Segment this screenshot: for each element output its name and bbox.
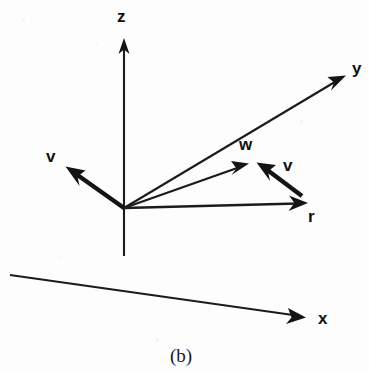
vector-label-w: w <box>239 136 252 153</box>
vector-label-v-right: v <box>283 157 292 174</box>
y-axis-arrow-head <box>328 76 347 91</box>
vector-v-left <box>66 167 125 209</box>
figure-root: z y x v w v r (b) <box>0 0 369 373</box>
z-axis <box>119 38 130 256</box>
figure-caption: (b) <box>170 345 192 367</box>
vector-w <box>124 161 249 208</box>
axis-label-z: z <box>117 8 126 25</box>
vector-label-v-left: v <box>46 148 55 165</box>
x-axis <box>10 275 306 324</box>
x-axis-line <box>10 275 300 316</box>
vector-v-left-shaft <box>76 174 124 208</box>
axis-label-y: y <box>352 60 361 77</box>
vector-v-right <box>257 163 303 197</box>
x-axis-arrow-head <box>286 308 306 324</box>
vector-diagram <box>0 0 369 373</box>
vector-r-shaft <box>124 204 298 209</box>
vector-label-r: r <box>308 208 315 225</box>
y-axis-line <box>124 80 339 209</box>
vector-w-arrow-head <box>231 161 249 175</box>
axis-label-x: x <box>318 310 327 327</box>
y-axis <box>124 76 346 209</box>
